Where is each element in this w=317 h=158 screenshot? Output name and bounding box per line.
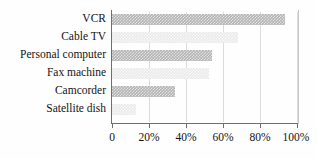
gridline-60: [223, 12, 224, 122]
gridline-80: [260, 12, 261, 122]
category-axis: VCR Cable TV Personal computer Fax machi…: [0, 12, 110, 122]
bar-chart: VCR Cable TV Personal computer Fax machi…: [0, 0, 317, 158]
bar-satellite-dish: [112, 104, 136, 115]
tick-mark-0: [112, 124, 113, 128]
tick-label-20: 20%: [138, 131, 159, 144]
tick-mark-60: [223, 124, 224, 128]
tick-label-80: 80%: [249, 131, 270, 144]
x-axis-line: [111, 123, 299, 124]
tick-mark-100: [297, 124, 298, 128]
bar-vcr: [112, 14, 285, 25]
y-axis-line: [111, 10, 112, 124]
tick-mark-40: [186, 124, 187, 128]
category-label-vcr: VCR: [0, 12, 106, 24]
tick-label-40: 40%: [175, 131, 196, 144]
right-frame-line: [298, 10, 299, 124]
category-label-cable-tv: Cable TV: [0, 30, 106, 42]
bar-fax-machine: [112, 68, 209, 79]
bar-personal-computer: [112, 50, 212, 61]
tick-label-60: 60%: [212, 131, 233, 144]
bar-camcorder: [112, 86, 175, 97]
gridline-20: [149, 12, 150, 122]
tick-mark-20: [149, 124, 150, 128]
category-label-camcorder: Camcorder: [0, 84, 106, 96]
category-label-personal-computer: Personal computer: [0, 48, 106, 60]
tick-label-0: 0: [109, 131, 115, 144]
gridline-40: [186, 12, 187, 122]
category-label-satellite-dish: Satellite dish: [0, 102, 106, 114]
bar-cable-tv: [112, 32, 238, 43]
category-label-fax-machine: Fax machine: [0, 66, 106, 78]
tick-label-100: 100%: [283, 131, 310, 144]
tick-mark-80: [260, 124, 261, 128]
plot-area: [112, 12, 298, 122]
